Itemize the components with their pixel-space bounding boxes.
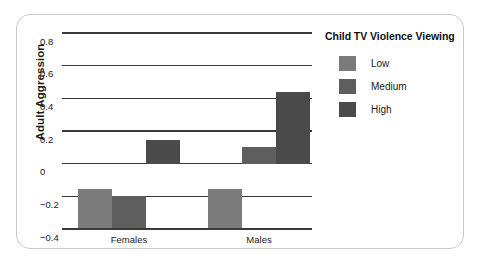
- legend-rows: LowMediumHigh: [325, 52, 465, 121]
- x-axis-line: [62, 228, 312, 229]
- legend-item-label: Low: [371, 58, 389, 69]
- bar-females-high: [146, 140, 180, 164]
- plot-area: 0.80.60.40.20−0.2−0.4 FemalesMales: [62, 33, 312, 229]
- y-tick-label: 0.6: [40, 68, 53, 79]
- legend-swatch-icon: [339, 102, 356, 117]
- gridline: [62, 130, 312, 131]
- bar-females-medium: [112, 196, 146, 229]
- y-tick-label: 0.8: [40, 36, 53, 47]
- legend-swatch-icon: [339, 56, 356, 71]
- legend-item-medium: Medium: [325, 75, 465, 98]
- legend-swatch-icon: [339, 79, 356, 94]
- legend: Child TV Violence Viewing LowMediumHigh: [325, 30, 465, 121]
- chart-figure: Adult Aggression 0.80.60.40.20−0.2−0.4 F…: [0, 0, 481, 268]
- gridline: [62, 65, 312, 66]
- legend-title: Child TV Violence Viewing: [325, 30, 465, 42]
- y-tick-label: −0.2: [40, 199, 59, 210]
- gridline: [62, 98, 312, 99]
- bar-males-high: [276, 92, 310, 164]
- legend-item-label: High: [371, 104, 392, 115]
- x-category-label: Females: [111, 234, 147, 245]
- y-tick-label: 0.4: [40, 101, 53, 112]
- y-tick-label: 0: [40, 166, 45, 177]
- y-tick-label: −0.4: [40, 232, 59, 243]
- gridline: [62, 32, 312, 33]
- y-tick-label: 0.2: [40, 134, 53, 145]
- bar-males-low: [208, 189, 242, 229]
- legend-item-low: Low: [325, 52, 465, 75]
- x-category-label: Males: [246, 234, 271, 245]
- bar-males-medium: [242, 147, 276, 163]
- bar-females-low: [78, 189, 112, 229]
- legend-item-high: High: [325, 98, 465, 121]
- legend-item-label: Medium: [371, 81, 407, 92]
